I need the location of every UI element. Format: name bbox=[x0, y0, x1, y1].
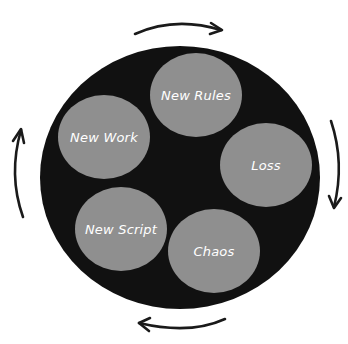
cycle-diagram: New Rules Loss Chaos New Script New Work bbox=[0, 0, 348, 344]
arrow-up-curved-icon bbox=[13, 129, 24, 217]
arrow-right-curved-icon bbox=[135, 23, 222, 34]
arrow-down-curved-icon bbox=[329, 121, 341, 208]
arrow-left-curved-icon bbox=[139, 318, 225, 331]
cycle-arrows bbox=[0, 0, 348, 344]
